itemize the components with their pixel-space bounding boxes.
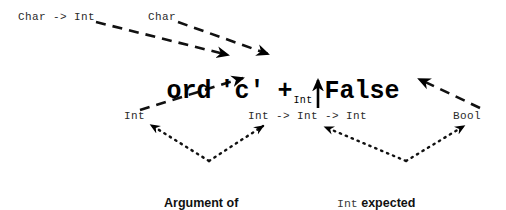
expression-token-plus: + — [278, 77, 293, 107]
expression: ord'c'+IntFalse — [0, 47, 506, 141]
label-bool-type: Bool — [453, 110, 481, 123]
label-char-to-int: Char -> Int — [18, 11, 95, 24]
annotation-mismatch-word-expected: expected — [361, 196, 415, 210]
expression-token-plus-subscript: Int — [294, 95, 313, 106]
expression-token-false: False — [324, 77, 399, 107]
label-plus-type: Int -> Int -> Int — [248, 110, 367, 123]
expression-token-char-literal: 'c' — [220, 77, 265, 107]
label-int-result: Int — [124, 110, 145, 123]
label-char: Char — [148, 11, 176, 24]
type-diagram: Char -> Int Char ord'c'+IntFalse Int Int… — [0, 0, 506, 210]
annotation-argument-correct: Argument of the correct type — [164, 166, 258, 210]
annotation-mismatch-type-expected: Int — [337, 197, 358, 210]
expression-token-ord: ord — [167, 77, 212, 107]
annotation-argument-line-1: Argument of — [164, 196, 258, 210]
annotation-type-mismatch: Int expected Bool given — [337, 166, 415, 210]
annotation-mismatch-line-1: Int expected — [337, 196, 415, 210]
